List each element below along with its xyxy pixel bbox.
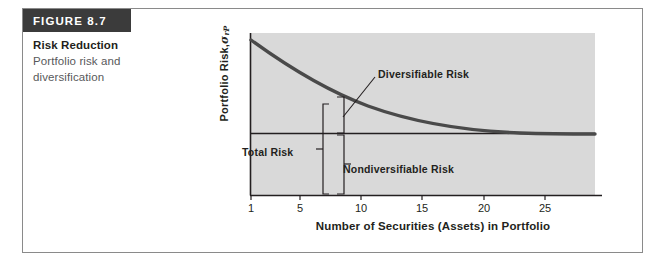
caption-subtitle-line-2: diversification	[33, 70, 153, 85]
chart-container: Portfolio Risk,σrP Number of Securities …	[190, 20, 630, 250]
annotation-total-risk: Total Risk	[242, 146, 293, 158]
y-axis-sigma-symbol: σ	[218, 36, 231, 44]
x-tick-label-1: 1	[238, 202, 264, 214]
caption-subtitle-line-1: Portfolio risk and	[33, 54, 153, 69]
x-tick-label-20: 20	[471, 202, 497, 214]
risk-reduction-chart	[190, 20, 630, 250]
x-axis-title: Number of Securities (Assets) in Portfol…	[248, 220, 618, 232]
y-axis-title: Portfolio Risk,σrP	[218, 0, 231, 154]
x-tick-label-15: 15	[409, 202, 435, 214]
figure-header-strip: FIGURE 8.7	[23, 9, 131, 32]
figure-number-label: FIGURE 8.7	[23, 15, 107, 27]
x-tick-label-10: 10	[348, 202, 374, 214]
x-tick-label-5: 5	[287, 202, 313, 214]
x-tick-label-25: 25	[532, 202, 558, 214]
figure-caption: Risk Reduction Portfolio risk and divers…	[33, 38, 153, 85]
y-axis-subscript: rP	[222, 26, 231, 36]
figure-root: FIGURE 8.7 Risk Reduction Portfolio risk…	[0, 0, 663, 275]
caption-title: Risk Reduction	[33, 38, 153, 53]
annotation-diversifiable-risk: Diversifiable Risk	[378, 68, 469, 80]
y-axis-title-text: Portfolio Risk,	[218, 44, 230, 122]
annotation-nondiversifiable-risk: Nondiversifiable Risk	[343, 163, 454, 175]
